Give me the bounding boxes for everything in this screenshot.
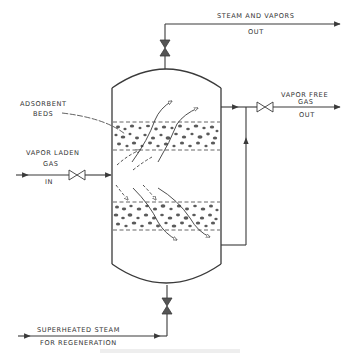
label-steam-in-1: SUPERHEATED STEAM: [37, 326, 120, 334]
label-adsorbent-1: ADSORBENT: [20, 100, 67, 108]
valve-inlet[interactable]: [69, 170, 85, 180]
vapor-free-gas-out-line: [221, 107, 340, 245]
adsorbent-bed-lower: [113, 202, 220, 230]
vessel: [112, 69, 221, 283]
label-vapor-free-2: GAS: [298, 98, 314, 106]
vessel-bottom-head: [112, 264, 221, 283]
valve-outlet[interactable]: [257, 102, 273, 112]
label-steam-in-2: FOR REGENERATION: [40, 339, 117, 347]
vessel-top-head: [112, 69, 221, 88]
label-vapor-free-3: OUT: [299, 111, 315, 119]
adsorbent-leader-line: [62, 113, 125, 134]
flow-arrows-upper: [117, 101, 198, 170]
flow-arrows-lower: [116, 185, 210, 240]
label-vapor-laden-3: IN: [45, 178, 53, 186]
adsorbent-bed-upper: [113, 122, 220, 150]
label-adsorbent-2: BEDS: [33, 110, 53, 118]
label-steam-vapors-out-1: STEAM AND VAPORS: [217, 12, 294, 20]
valve-bottom[interactable]: [162, 298, 172, 314]
label-vapor-laden-1: VAPOR LADEN: [26, 149, 80, 157]
adsorber-diagram: STEAM AND VAPORS OUT VAPOR FREE GAS OUT …: [0, 0, 354, 357]
valve-top[interactable]: [160, 40, 170, 56]
label-steam-vapors-out-2: OUT: [248, 28, 264, 36]
label-vapor-laden-2: GAS: [43, 160, 59, 168]
figure-caption-faded: [100, 349, 240, 353]
